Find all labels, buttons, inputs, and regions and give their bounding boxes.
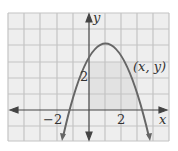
point-label: (x, y) — [133, 59, 166, 74]
parabola-graph: y x −2 2 2 (x, y) — [0, 0, 178, 151]
x-axis-label: x — [159, 112, 167, 127]
shaded-region — [89, 62, 137, 110]
y-axis-label: y — [92, 10, 101, 25]
tick-label-y2: 2 — [80, 69, 88, 84]
tick-label-neg2: −2 — [43, 112, 62, 127]
tick-label-x2: 2 — [117, 112, 125, 127]
